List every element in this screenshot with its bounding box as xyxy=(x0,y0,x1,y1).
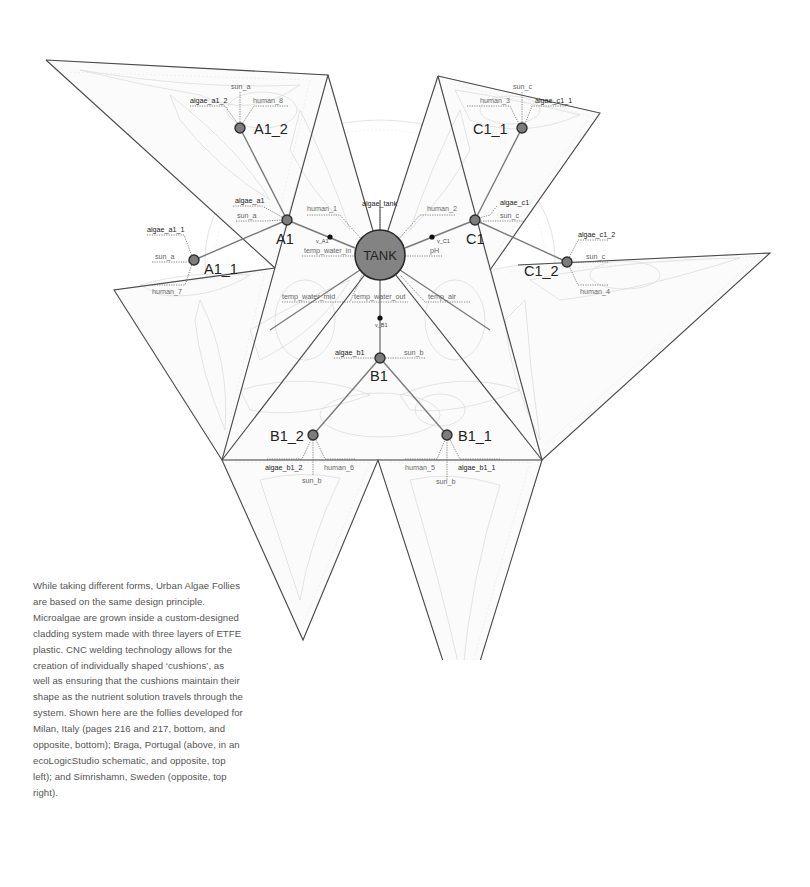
sensor-algae-a1-1: algae_a1_1 xyxy=(147,225,185,234)
sensor-human-5: human_5 xyxy=(405,463,435,472)
node-a1-icon xyxy=(282,215,292,225)
sensor-human-3: human_3 xyxy=(480,96,510,105)
sensor-sun-c-c1-2: sun_c xyxy=(586,252,606,261)
sensor-algae-b1: algae_b1 xyxy=(335,348,365,357)
sensor-algae-b1-2: algae_b1_2 xyxy=(265,463,303,472)
sensor-sun-b-b1: sun_b xyxy=(404,348,424,357)
sensor-algae-c1-1: algae_c1_1 xyxy=(535,96,572,105)
node-c1-2-icon xyxy=(562,257,572,267)
cladding-panels xyxy=(46,60,770,660)
node-label-a1: A1 xyxy=(276,231,294,247)
node-b1-icon xyxy=(375,353,385,363)
valve-label-c1: v_C1 xyxy=(437,238,450,244)
sensor-sun-c-c1: sun_c xyxy=(500,211,520,220)
panel-b1-1 xyxy=(378,460,542,660)
sensor-human-7: human_7 xyxy=(152,287,182,296)
sensor-temp-water-out: temp_water_out xyxy=(354,292,406,301)
sensor-human-2: human_2 xyxy=(427,204,457,213)
sensor-algae-c1: algae_c1 xyxy=(500,198,529,207)
valve-b1-icon xyxy=(377,315,382,320)
node-label-b1-2: B1_2 xyxy=(270,428,304,444)
node-label-b1-1: B1_1 xyxy=(458,428,492,444)
figure-caption: While taking different forms, Urban Alga… xyxy=(33,578,243,801)
valve-c1-icon xyxy=(429,234,434,239)
node-label-b1: B1 xyxy=(370,368,388,384)
node-c1-1-icon xyxy=(517,123,527,133)
node-b1-2-icon xyxy=(308,430,318,440)
sensor-sun-a-a1: sun_a xyxy=(237,211,257,220)
sensor-sun-b-b1-1: sun_b xyxy=(436,477,456,486)
node-c1-icon xyxy=(470,215,480,225)
sensor-algae-c1-2: algae_c1_2 xyxy=(578,230,615,239)
sensor-temp-water-in: temp_water_in xyxy=(304,246,351,255)
sensor-ph: pH xyxy=(430,246,439,255)
sensor-sun-a-a1-2: sun_a xyxy=(231,82,251,91)
sensor-algae-tank: algae_tank xyxy=(362,199,398,208)
sensor-sun-c-c1-1: sun_c xyxy=(513,82,533,91)
node-label-a1-2: A1_2 xyxy=(254,121,288,137)
valve-label-b1: v_B1 xyxy=(375,322,388,328)
sensor-sun-a-a1-1: sun_a xyxy=(155,252,175,261)
folly-schematic-diagram: v_A1 v_C1 v_B1 TANK A1 A1_2 A1_1 C1 C1_1… xyxy=(0,0,810,660)
node-a1-2-icon xyxy=(235,123,245,133)
sensor-temp-air: temp_air xyxy=(428,292,457,301)
node-label-c1-2: C1_2 xyxy=(524,263,559,279)
node-b1-1-icon xyxy=(442,430,452,440)
sensor-temp-water-mid: temp_water_mid xyxy=(282,292,335,301)
sensor-algae-b1-1: algae_b1_1 xyxy=(458,463,496,472)
tank-label: TANK xyxy=(363,248,397,263)
node-label-c1: C1 xyxy=(466,231,485,247)
sensor-algae-a1: algae_a1 xyxy=(235,196,265,205)
sensor-human-6: human_6 xyxy=(324,463,354,472)
sensor-human-4: human_4 xyxy=(580,287,610,296)
valve-label-a1: v_A1 xyxy=(316,238,329,244)
sensor-algae-a1-2: algae_a1_2 xyxy=(190,96,228,105)
node-label-a1-1: A1_1 xyxy=(204,261,238,277)
sensor-human-8: human_8 xyxy=(253,96,283,105)
sensor-sun-b-b1-2: sun_b xyxy=(302,476,322,485)
sensor-human-1: human_1 xyxy=(307,204,337,213)
node-label-c1-1: C1_1 xyxy=(473,121,508,137)
panel-b1-2 xyxy=(222,460,378,640)
tank: TANK xyxy=(355,230,405,280)
node-a1-1-icon xyxy=(189,255,199,265)
